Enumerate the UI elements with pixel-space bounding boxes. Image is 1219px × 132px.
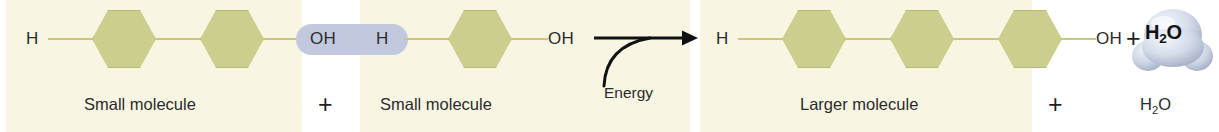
- bond-line: [48, 38, 94, 40]
- reactant-1-left-terminal-h: H: [26, 30, 39, 47]
- bond-line: [844, 38, 892, 40]
- bond-line: [404, 38, 450, 40]
- caption-water-subscript: 2: [1152, 104, 1158, 116]
- caption-reactant-1: Small molecule: [84, 96, 196, 113]
- bond-line: [1060, 38, 1096, 40]
- caption-product: Larger molecule: [800, 96, 918, 113]
- highlight-h-group: H: [376, 30, 389, 47]
- water-blob-subscript: 2: [1159, 31, 1166, 46]
- bond-line: [154, 38, 202, 40]
- bond-line: [952, 38, 1000, 40]
- reaction-arrow-icon: [592, 16, 700, 88]
- product-left-terminal-h: H: [716, 30, 729, 47]
- caption-water: H2O: [1140, 96, 1171, 113]
- caption-reactant-2: Small molecule: [380, 96, 492, 113]
- dehydration-synthesis-diagram: H OH H OH Energy H OH +: [0, 0, 1219, 132]
- plus-sign-reactants: +: [318, 92, 333, 117]
- plus-sign-products: +: [1048, 92, 1063, 117]
- reactant-2-right-terminal-oh: OH: [548, 30, 574, 47]
- highlight-oh-group: OH: [310, 30, 336, 47]
- energy-label: Energy: [604, 84, 653, 102]
- water-blob-h: H: [1145, 21, 1159, 43]
- bond-line: [738, 38, 784, 40]
- water-blob-formula: H2O: [1145, 22, 1182, 42]
- water-blob-o: O: [1166, 21, 1181, 43]
- bond-line: [510, 38, 548, 40]
- caption-water-h: H: [1140, 95, 1152, 113]
- caption-water-o: O: [1158, 95, 1171, 113]
- product-right-terminal-oh: OH: [1096, 30, 1122, 47]
